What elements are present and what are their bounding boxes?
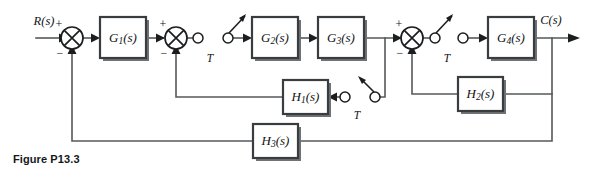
block-h3-label: H3(s) — [261, 132, 290, 148]
wire-tap-to-sampler3 — [380, 38, 385, 97]
sampler1-right-node — [223, 33, 233, 43]
block-g3: G3(s) — [318, 17, 367, 61]
block-h2-label: H2(s) — [466, 85, 495, 101]
block-g2-label: G2(s) — [261, 29, 289, 45]
sampler2-right-node — [458, 33, 468, 43]
output-signal-label: C(s) — [540, 13, 562, 27]
sum1-minus-sign: − — [57, 46, 64, 60]
arrow-into-sum2 — [156, 34, 165, 43]
block-g3-label: G3(s) — [327, 29, 355, 45]
block-h1-label: H1(s) — [291, 88, 320, 104]
sum3-minus-sign: − — [397, 46, 404, 60]
block-diagram-canvas: G1(s) G2(s) G3(s) G4(s) H1(s) — [0, 0, 592, 178]
arrow-into-g2 — [243, 34, 252, 43]
block-g4-label: G4(s) — [497, 29, 525, 45]
sum2-minus-sign: − — [161, 46, 168, 60]
wire-h3-to-sum1 — [72, 50, 253, 141]
input-signal-label: R(s) — [33, 14, 55, 28]
figure-container: G1(s) G2(s) G3(s) G4(s) H1(s) — [0, 0, 592, 178]
block-g2: G2(s) — [252, 17, 301, 61]
sum3-plus-sign: + — [396, 17, 403, 31]
sampler2-left-node — [430, 33, 440, 43]
sampler3-left-node — [340, 92, 350, 102]
arrow-into-g4 — [479, 34, 488, 43]
block-h2: H2(s) — [458, 77, 506, 114]
block-h1: H1(s) — [283, 80, 331, 117]
arrow-output — [568, 34, 580, 43]
sampler-1: T — [193, 14, 246, 64]
sampler1-left-node — [193, 33, 203, 43]
arrow-into-g1 — [91, 34, 100, 43]
sum2-plus-sign: + — [160, 17, 167, 31]
sampler2-t-label: T — [444, 52, 452, 64]
sampler-3: T — [340, 76, 380, 121]
block-g1-label: G1(s) — [109, 29, 137, 45]
block-h3: H3(s) — [253, 124, 301, 161]
sampler-2: T — [430, 14, 468, 64]
block-g1: G1(s) — [100, 17, 149, 61]
figure-caption: Figure P13.3 — [13, 153, 80, 165]
sampler3-t-label: T — [354, 109, 362, 121]
sum1-plus-sign: + — [56, 17, 63, 31]
wire-h2-to-sum3 — [412, 50, 458, 94]
sampler1-t-label: T — [207, 52, 215, 64]
block-g4: G4(s) — [488, 17, 537, 61]
sampler3-right-node — [370, 92, 380, 102]
arrow-into-g3 — [309, 34, 318, 43]
